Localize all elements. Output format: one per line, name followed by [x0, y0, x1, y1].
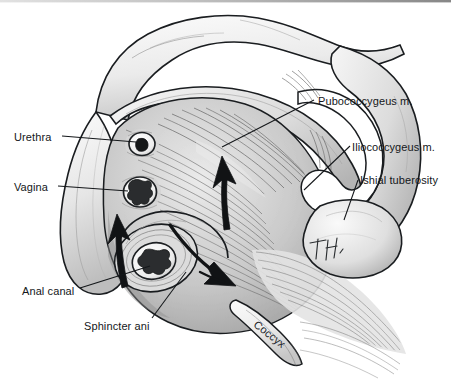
urethra-orifice	[125, 129, 159, 159]
label-sphincter-ani: Sphincter ani	[84, 320, 150, 332]
vagina-orifice	[119, 173, 161, 211]
label-urethra: Urethra	[14, 131, 51, 143]
label-anal-canal: Anal canal	[22, 285, 74, 297]
anatomical-illustration	[0, 0, 451, 380]
label-iliococcygeus: Iliococcygeus m.	[352, 141, 435, 153]
label-pubococcygeus: Pubococcygeus m.	[318, 95, 413, 107]
label-ischial-tuberosity: Ishial tuberosity	[360, 174, 438, 186]
label-vagina: Vagina	[14, 181, 48, 193]
scan-edge-line	[0, 0, 451, 2]
anatomy-figure: Urethra Vagina Anal canal Sphincter ani …	[0, 0, 451, 380]
